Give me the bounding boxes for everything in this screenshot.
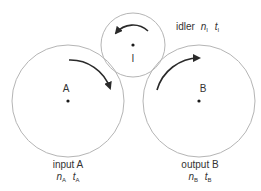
gear-idler-center-dot bbox=[131, 43, 134, 46]
output-b-role-label: output B bbox=[181, 159, 219, 170]
gear-idler-center-label: I bbox=[132, 53, 135, 64]
idler-caption-text: idler nI tI bbox=[176, 21, 219, 34]
gear-a-clockwise-arrow-icon bbox=[69, 60, 110, 88]
gear-a: A bbox=[12, 45, 124, 157]
gear-train-diagram: A I B idler nI tI input A nA tA output B bbox=[0, 0, 261, 191]
gear-b-center-dot bbox=[197, 99, 200, 102]
input-a-symbols: nA tA bbox=[56, 171, 79, 184]
gear-a-center-dot bbox=[66, 99, 69, 102]
gear-a-center-label: A bbox=[63, 83, 70, 94]
gear-idler-counterclockwise-arrow-icon bbox=[116, 25, 148, 33]
output-b-caption: output B nB tB bbox=[181, 159, 219, 184]
gear-b-center-label: B bbox=[200, 83, 207, 94]
input-a-role-label: input A bbox=[53, 159, 84, 170]
input-a-caption: input A nA tA bbox=[53, 159, 84, 184]
gear-b-clockwise-arrow-icon bbox=[157, 58, 199, 90]
gear-idler: I bbox=[101, 13, 165, 77]
output-b-symbols: nB tB bbox=[188, 171, 211, 184]
idler-caption: idler nI tI bbox=[176, 21, 219, 34]
